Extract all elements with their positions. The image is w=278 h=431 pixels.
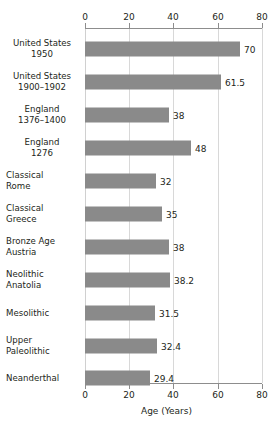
top-tick-label-40: 40	[167, 12, 178, 22]
bar-value-label: 29.4	[154, 373, 174, 383]
bar-value-label: 35	[166, 209, 177, 219]
bar-group: 32	[85, 174, 171, 189]
bar-value-label: 38	[173, 242, 184, 252]
top-tick-mark-60	[218, 23, 219, 28]
bar	[85, 339, 157, 354]
bar-group: 29.4	[85, 371, 174, 386]
category-label: Classical Greece	[6, 203, 78, 225]
bar	[85, 273, 170, 288]
bar-group: 38	[85, 240, 184, 255]
bar	[85, 108, 169, 123]
top-tick-label-20: 20	[123, 12, 134, 22]
category-label: Neolithic Anatolia	[6, 269, 78, 291]
bar-value-label: 48	[195, 143, 206, 153]
category-label: Classical Rome	[6, 170, 78, 192]
category-label: Mesolithic	[6, 308, 78, 319]
top-tick-label-0: 0	[82, 12, 88, 22]
bar-row: Classical Rome 32	[0, 165, 278, 197]
bar	[85, 371, 150, 386]
bar-value-label: 31.5	[159, 308, 179, 318]
category-label: Bronze Age Austria	[6, 236, 78, 258]
category-label: England 1376–1400	[6, 104, 78, 126]
bar-row: United States 1900–1902 61.5	[0, 66, 278, 98]
category-label: Neanderthal	[6, 373, 78, 384]
bar	[85, 75, 221, 90]
bar-group: 32.4	[85, 339, 181, 354]
top-tick-label-60: 60	[212, 12, 223, 22]
bar	[85, 42, 240, 57]
bar-value-label: 32.4	[161, 341, 181, 351]
bar-row: Bronze Age Austria 38	[0, 231, 278, 263]
bar-row: Neanderthal 29.4	[0, 362, 278, 394]
top-tick-mark-0	[85, 23, 86, 28]
bar	[85, 306, 155, 321]
bar-value-label: 38	[173, 110, 184, 120]
x-axis-title: Age (Years)	[0, 406, 278, 417]
bar-row: Classical Greece 35	[0, 198, 278, 230]
category-label: Upper Paleolithic	[6, 335, 78, 357]
top-tick-mark-40	[173, 23, 174, 28]
bar-group: 61.5	[85, 75, 245, 90]
category-label: England 1276	[6, 137, 78, 159]
bar-group: 35	[85, 207, 177, 222]
bar	[85, 141, 191, 156]
top-tick-label-80: 80	[256, 12, 267, 22]
bar-row: United States 1950 70	[0, 33, 278, 65]
bar-value-label: 70	[244, 44, 255, 54]
bar-value-label: 32	[160, 176, 171, 186]
bar-row: Neolithic Anatolia 38.2	[0, 264, 278, 296]
bar-row: England 1376–1400 38	[0, 99, 278, 131]
top-tick-mark-20	[129, 23, 130, 28]
bar	[85, 240, 169, 255]
bar-group: 48	[85, 141, 206, 156]
bar-row: England 1276 48	[0, 132, 278, 164]
top-tick-mark-80	[262, 23, 263, 28]
category-label: United States 1950	[6, 38, 78, 60]
bar-chart: 0 20 40 60 80 0 20 40 60 80 United State…	[0, 0, 278, 431]
bar-group: 70	[85, 42, 255, 57]
bar-value-label: 61.5	[225, 77, 245, 87]
bar	[85, 207, 162, 222]
bar-row: Upper Paleolithic 32.4	[0, 330, 278, 362]
bar-group: 38.2	[85, 273, 194, 288]
bar-value-label: 38.2	[174, 275, 194, 285]
bar-group: 38	[85, 108, 184, 123]
bar-row: Mesolithic 31.5	[0, 297, 278, 329]
top-axis-line	[85, 28, 262, 29]
bar-group: 31.5	[85, 306, 179, 321]
bar	[85, 174, 156, 189]
category-label: United States 1900–1902	[6, 71, 78, 93]
x-axis-title-text: Age (Years)	[141, 406, 192, 417]
